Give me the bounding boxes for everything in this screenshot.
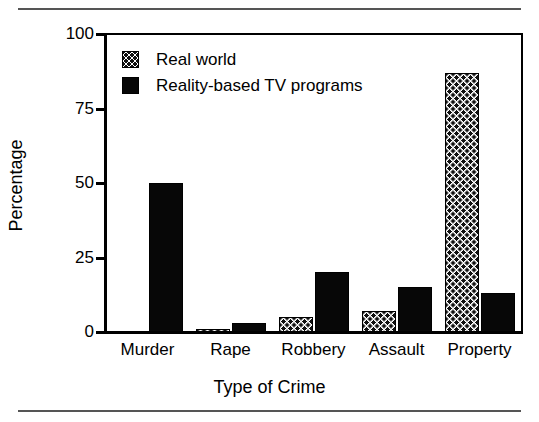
legend-label: Real world: [156, 50, 236, 69]
y-tick-mark: [96, 331, 105, 334]
y-axis-title: Percentage: [6, 86, 27, 286]
x-axis-title: Type of Crime: [0, 377, 539, 398]
bar-rape-tv: [232, 323, 266, 332]
bar-rape-real-world: [196, 329, 230, 332]
bar-assault-tv: [398, 287, 432, 332]
y-tick-label: 100: [34, 25, 94, 42]
y-tick-mark: [96, 257, 105, 260]
bar-property-real-world: [445, 73, 479, 332]
y-tick-label: 0: [34, 323, 94, 340]
figure-container: 0255075100 Percentage MurderRapeRobberyA…: [0, 0, 539, 422]
plot-frame-right: [521, 33, 523, 334]
figure-bottom-rule: [18, 410, 521, 412]
bar-robbery-tv: [315, 272, 349, 332]
legend-swatch-solid: [122, 77, 139, 94]
y-tick-mark: [96, 33, 105, 36]
bar-murder-tv: [149, 183, 183, 332]
y-tick-label: 75: [34, 100, 94, 117]
y-tick-mark: [96, 108, 105, 111]
figure-top-rule: [18, 8, 521, 10]
y-tick-label: 50: [34, 174, 94, 191]
legend-item: Real world: [122, 46, 363, 72]
bar-property-tv: [481, 293, 515, 332]
y-tick-label-wrap: 100: [0, 25, 94, 42]
y-tick-label-wrap: 0: [0, 323, 94, 340]
bar-robbery-real-world: [279, 317, 313, 332]
bar-assault-real-world: [362, 311, 396, 332]
y-tick-mark: [96, 182, 105, 185]
legend-item: Reality-based TV programs: [122, 72, 363, 98]
legend-swatch-dotted: [122, 51, 139, 68]
chart-legend: Real worldReality-based TV programs: [122, 46, 363, 98]
x-tick-label-property: Property: [420, 340, 539, 360]
y-tick-label: 25: [34, 249, 94, 266]
legend-label: Reality-based TV programs: [156, 76, 363, 95]
